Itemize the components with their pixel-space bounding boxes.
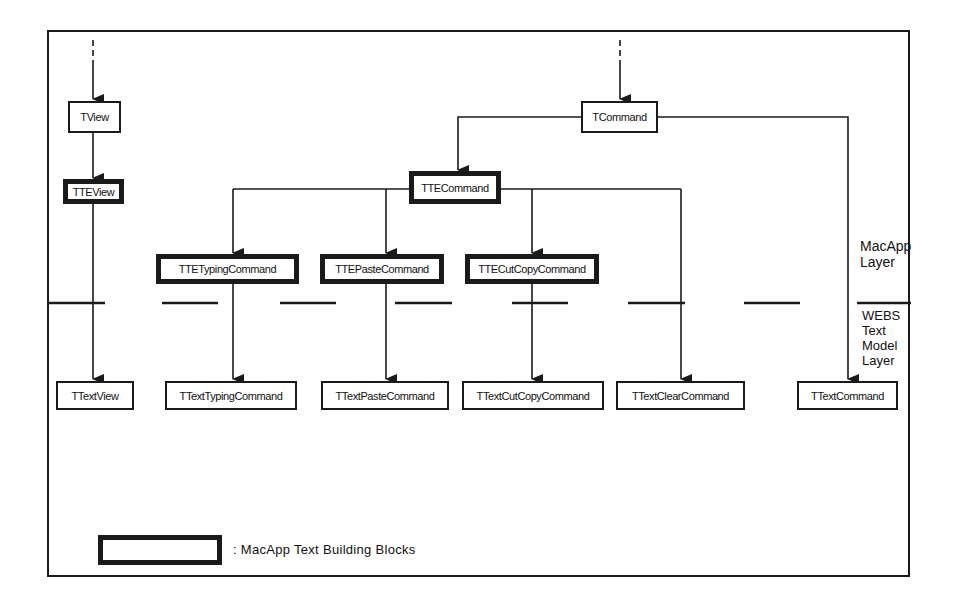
class-tcommand: TCommand: [581, 101, 658, 133]
class-ttetypingcommand: TTETypingCommand: [156, 254, 299, 284]
webs-layer-label: WEBS Text Model Layer: [862, 308, 900, 368]
class-tteview: TTEView: [63, 179, 124, 204]
macapp-layer-line1: MacApp: [860, 238, 911, 254]
class-ttecutcopycommand: TTECutCopyCommand: [465, 254, 599, 284]
class-ttexttypingcommand: TTextTypingCommand: [165, 381, 297, 410]
legend-swatch: [98, 535, 222, 565]
class-tview: TView: [68, 101, 121, 133]
macapp-layer-label: MacApp Layer: [860, 238, 911, 270]
class-ttextcutcopycommand: TTextCutCopyCommand: [462, 381, 604, 410]
class-ttepastecommand: TTEPasteCommand: [320, 254, 444, 284]
class-ttextclearcommand: TTextClearCommand: [616, 381, 745, 410]
webs-layer-line3: Model: [862, 338, 900, 353]
webs-layer-line2: Text: [862, 323, 900, 338]
class-ttextpastecommand: TTextPasteCommand: [321, 381, 449, 410]
macapp-layer-line2: Layer: [860, 254, 911, 270]
class-ttecommand: TTECommand: [409, 171, 501, 204]
legend-text: : MacApp Text Building Blocks: [233, 542, 416, 557]
webs-layer-line1: WEBS: [862, 308, 900, 323]
webs-layer-line4: Layer: [862, 353, 900, 368]
diagram-frame: [47, 30, 910, 577]
class-ttextcommand: TTextCommand: [797, 381, 898, 410]
class-ttextview: TTextView: [56, 381, 134, 410]
